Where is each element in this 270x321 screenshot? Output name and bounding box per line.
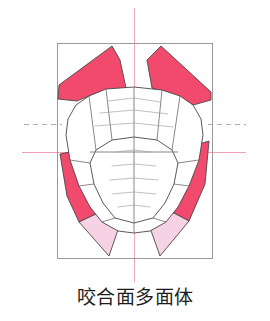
occlusal-polyhedron-diagram xyxy=(0,0,270,321)
figure-caption: 咬合面多面体 xyxy=(0,285,270,309)
figure-container: 咬合面多面体 xyxy=(0,0,270,321)
